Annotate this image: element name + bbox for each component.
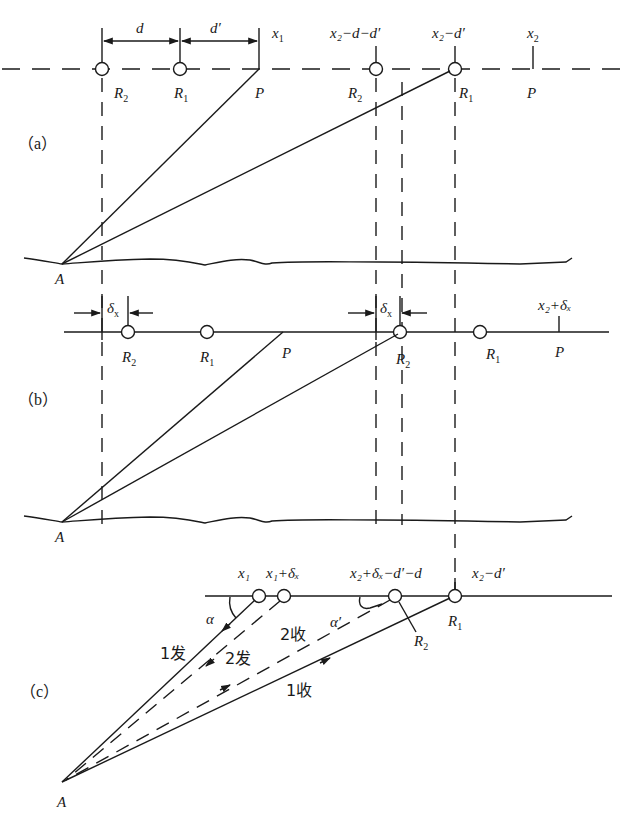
point-R1: R1 [448, 614, 462, 632]
label-x2-dprime: x₂−d′ [472, 566, 505, 581]
label-x1-plus-dx: x₁+δₓ [266, 566, 299, 581]
label-x1: x₁ [238, 566, 250, 581]
ray-label-send-1: 1发 [160, 646, 186, 662]
point-A-c: A [57, 795, 66, 810]
panel-label-c: （c） [20, 684, 59, 700]
angle-alpha: α [206, 612, 214, 627]
panel-label-b: （b） [18, 392, 58, 408]
delta-x-left: δx [107, 301, 119, 319]
dimension-d: d [136, 21, 144, 36]
label-x1: x1 [272, 26, 284, 44]
panel-c-geometry [62, 578, 612, 782]
point-R1: R1 [200, 350, 214, 368]
reflector-b [24, 516, 572, 523]
angle-alpha-arc [230, 597, 236, 618]
label-x2-dprime: x₂−d′ [432, 26, 465, 41]
ray-label-recv-2: 2收 [280, 627, 306, 643]
point-A-b: A [55, 530, 64, 545]
receiver-circle [174, 63, 187, 76]
angle-alpha-prime: α′ [330, 615, 341, 630]
point-R2: R2 [414, 634, 428, 652]
receiver-circle [370, 63, 383, 76]
label-x2-d-dprime: x₂−d−d′ [330, 26, 380, 41]
label-x2: x2 [527, 26, 539, 44]
panel-a-geometry [2, 28, 632, 265]
dimension-d-prime: d′ [210, 21, 221, 36]
panel-label-a: （a） [18, 136, 57, 152]
reflector-a [24, 258, 572, 265]
point-R1-shifted: R1 [486, 347, 500, 365]
label-x2-plus-dx: x₂+δₓ [538, 298, 571, 313]
point-P: P [282, 346, 291, 361]
panel-b-geometry [24, 296, 609, 523]
receiver-circle [449, 63, 462, 76]
point-P: P [255, 86, 264, 101]
point-R2: R2 [114, 86, 128, 104]
point-P-shifted: P [555, 345, 564, 360]
point-R2-shifted: R2 [348, 86, 362, 104]
ray-label-send-2: 2发 [225, 651, 251, 667]
label-x2-dx-dprime-d: x₂+δₓ−d′−d [350, 566, 422, 581]
point-R1: R1 [174, 86, 188, 104]
point-A-a: A [55, 272, 64, 287]
point-P-shifted: P [527, 86, 536, 101]
point-R2-shifted: R2 [396, 352, 410, 370]
delta-x-right: δx [380, 301, 392, 319]
ray-label-recv-1: 1收 [286, 683, 312, 699]
point-R2: R2 [122, 350, 136, 368]
point-R1-shifted: R1 [459, 86, 473, 104]
diagram-canvas [0, 0, 635, 828]
ray [62, 69, 259, 264]
receiver-circle [96, 63, 109, 76]
